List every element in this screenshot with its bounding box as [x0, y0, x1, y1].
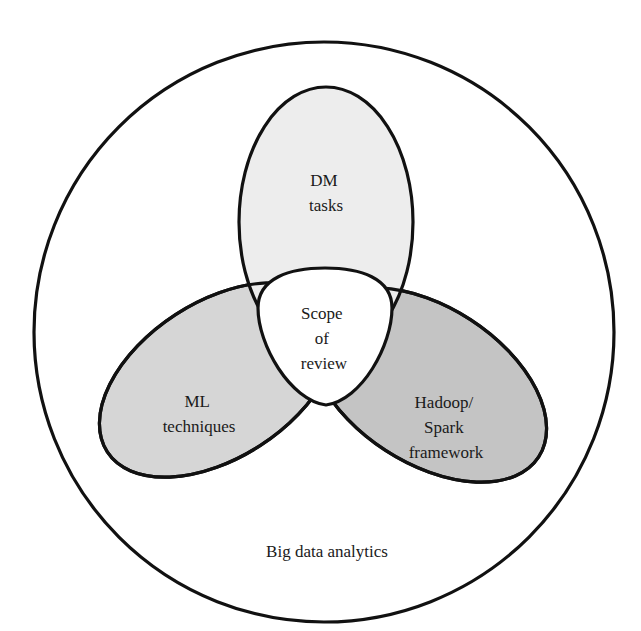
label-big-data-analytics: Big data analytics — [266, 542, 388, 561]
venn-diagram: DM tasks Scope of review ML techniques H… — [0, 0, 641, 631]
